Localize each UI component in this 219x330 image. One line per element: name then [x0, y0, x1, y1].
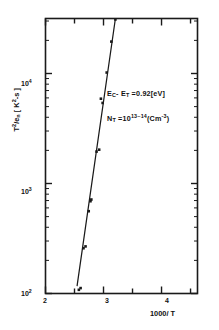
- y-tick-label-1e2: 102: [21, 288, 32, 297]
- plot-frame-box: [46, 19, 198, 294]
- data-point-9: [101, 102, 104, 105]
- data-point-7: [95, 150, 98, 153]
- data-point-11: [105, 71, 108, 74]
- x-axis-title: 1000/ T: [150, 309, 175, 318]
- data-point-10: [100, 97, 103, 100]
- data-point-8: [98, 148, 101, 151]
- data-point-3: [84, 245, 87, 248]
- axes-frame: [46, 19, 198, 294]
- y-tick-label-1e4: 104: [21, 78, 32, 87]
- data-point-6: [90, 198, 93, 201]
- x-tick-label-4: 4: [165, 297, 169, 304]
- data-point-1: [79, 287, 82, 290]
- data-point-4: [87, 210, 90, 213]
- x-tick-label-3: 3: [105, 297, 109, 304]
- arrhenius-plot-figure: EC- ET =0.92[eV] NT =1013~14(Cm-3) T2/en…: [0, 0, 219, 330]
- y-tick-label-1e3: 103: [21, 186, 32, 195]
- data-point-12: [110, 40, 113, 43]
- y-axis-title: T2/en [ K2-s ]: [11, 77, 21, 143]
- annotation-trap-density: NT =1013~14(Cm-3): [107, 113, 169, 123]
- annotation-activation-energy: EC- ET =0.92[eV]: [107, 89, 165, 98]
- x-tick-label-2: 2: [43, 297, 47, 304]
- plot-canvas: [0, 0, 219, 330]
- data-point-13: [114, 18, 117, 21]
